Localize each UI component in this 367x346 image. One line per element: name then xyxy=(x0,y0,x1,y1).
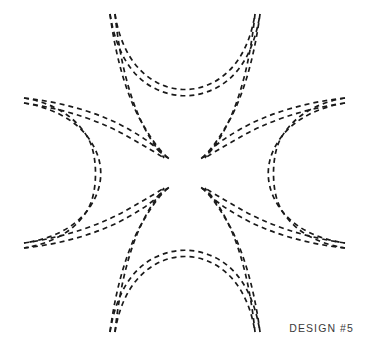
top-arc-outer xyxy=(115,14,255,90)
bottom-lobe-left-outer xyxy=(115,187,170,332)
right-lobe-top-inner xyxy=(205,103,345,158)
top-arc-inner xyxy=(110,14,260,96)
left-lobe-bottom-inner xyxy=(24,188,164,243)
bottom-lobe-right-outer xyxy=(200,187,255,332)
right-arc-outer xyxy=(274,98,346,248)
bottom-arc-outer xyxy=(115,257,255,333)
left-arc-inner xyxy=(24,103,101,243)
design-sheet: DESIGN #5 xyxy=(0,0,367,346)
top-lobe-left-outer xyxy=(115,14,170,159)
left-arc-outer xyxy=(24,98,96,248)
top-lobe-left-inner xyxy=(110,14,170,159)
left-lobe-top-inner xyxy=(24,103,164,158)
right-arc-inner xyxy=(268,103,345,243)
right-lobe-bottom-inner xyxy=(205,188,345,243)
top-lobe-right-inner xyxy=(200,14,260,159)
bottom-lobe-left-inner xyxy=(110,187,170,332)
design-artwork xyxy=(0,0,367,346)
design-caption: DESIGN #5 xyxy=(289,322,354,334)
bottom-arc-inner xyxy=(110,250,260,332)
top-lobe-right-outer xyxy=(200,14,255,159)
curve-group xyxy=(24,14,345,332)
bottom-lobe-right-inner xyxy=(200,187,260,332)
